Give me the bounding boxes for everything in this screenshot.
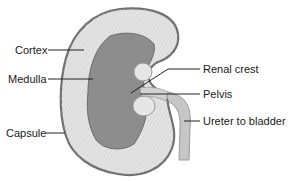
kidney-illustration (0, 0, 293, 181)
label-cortex: Cortex (15, 44, 47, 56)
kidney-diagram: Cortex Medulla Capsule Renal crest Pelvi… (0, 0, 293, 181)
label-capsule: Capsule (6, 127, 46, 139)
label-pelvis: Pelvis (203, 88, 232, 100)
label-ureter: Ureter to bladder (203, 115, 286, 127)
label-renal-crest: Renal crest (203, 63, 259, 75)
label-medulla: Medulla (8, 73, 47, 85)
